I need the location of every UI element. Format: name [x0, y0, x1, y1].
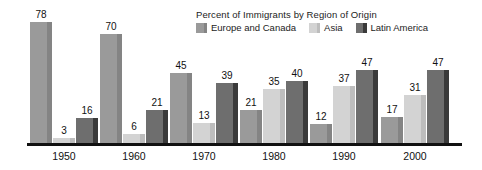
- bar-value-label: 45: [164, 60, 198, 71]
- bar-edge: [140, 134, 145, 143]
- bar-edge: [444, 70, 449, 143]
- bar: [123, 134, 145, 143]
- bar-face: [100, 34, 117, 143]
- bar-face: [381, 117, 398, 143]
- bar-value-label: 16: [70, 105, 104, 116]
- bar: [333, 86, 355, 143]
- bar-edge: [257, 110, 262, 143]
- bar-face: [123, 134, 140, 143]
- bar-edge: [280, 89, 285, 143]
- bar-edge: [398, 117, 403, 143]
- bar-face: [240, 110, 257, 143]
- bar: [240, 110, 262, 143]
- bar: [170, 73, 192, 143]
- bar-face: [146, 110, 163, 143]
- bar-value-label: 70: [94, 21, 128, 32]
- bar-edge: [421, 95, 426, 143]
- bar-value-label: 78: [24, 9, 58, 20]
- plot-area: 7831670621451339213540123747173147: [0, 0, 482, 145]
- bar-edge: [93, 118, 98, 143]
- bar: [193, 123, 215, 143]
- bar: [76, 118, 98, 143]
- bar-face: [263, 89, 280, 143]
- bar-edge: [350, 86, 355, 143]
- bar: [310, 124, 332, 143]
- bar-face: [310, 124, 327, 143]
- bar: [146, 110, 168, 143]
- bar-face: [404, 95, 421, 143]
- bar-face: [170, 73, 187, 143]
- bar-edge: [163, 110, 168, 143]
- year-label-2000: 2000: [369, 150, 461, 162]
- bar-value-label: 39: [210, 70, 244, 81]
- bar: [404, 95, 426, 143]
- bar: [263, 89, 285, 143]
- bar-edge: [210, 123, 215, 143]
- immigration-bar-chart: Percent of Immigrants by Region of Origi…: [0, 0, 482, 170]
- bar-face: [30, 22, 47, 143]
- bar-value-label: 47: [350, 57, 384, 68]
- bar-value-label: 47: [421, 57, 455, 68]
- bar-value-label: 40: [280, 68, 314, 79]
- bar-face: [76, 118, 93, 143]
- bar-face: [427, 70, 444, 143]
- bar-face: [286, 81, 303, 143]
- bar-face: [356, 70, 373, 143]
- x-axis-baseline: [27, 143, 462, 146]
- bar: [381, 117, 403, 143]
- bar-face: [193, 123, 210, 143]
- bar-edge: [233, 83, 238, 144]
- bar-value-label: 21: [140, 97, 174, 108]
- bar-face: [333, 86, 350, 143]
- bar: [216, 83, 238, 144]
- bar-edge: [187, 73, 192, 143]
- bar-face: [216, 83, 233, 144]
- bar-edge: [327, 124, 332, 143]
- bar: [427, 70, 449, 143]
